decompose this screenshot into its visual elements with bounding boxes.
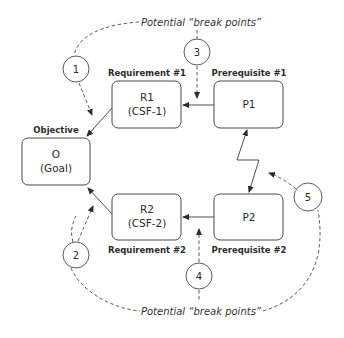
r2-label: Requirement #2 bbox=[108, 245, 186, 255]
break-point-2: 2 bbox=[63, 242, 89, 268]
r1-line2: (CSF-1) bbox=[128, 105, 167, 117]
node-objective: Objective O (Goal) bbox=[22, 125, 90, 185]
objective-line2: (Goal) bbox=[40, 162, 72, 174]
r1-label: Requirement #1 bbox=[108, 68, 186, 78]
dashed-arrow-5 bbox=[269, 173, 296, 189]
dashed-arrow-1 bbox=[79, 83, 92, 115]
break-points-title-bottom: Potential “break points” bbox=[141, 306, 262, 317]
break-point-1: 1 bbox=[63, 56, 89, 82]
break-point-number: 1 bbox=[73, 64, 79, 75]
p1-label: Prerequisite #1 bbox=[212, 68, 287, 78]
objective-label: Objective bbox=[33, 125, 79, 135]
break-point-number: 4 bbox=[196, 271, 202, 282]
break-point-number: 3 bbox=[194, 47, 200, 58]
zigzag-arrow-up bbox=[237, 130, 247, 160]
break-point-number: 5 bbox=[305, 192, 311, 203]
r1-line1: R1 bbox=[140, 91, 154, 103]
r2-line2: (CSF-2) bbox=[128, 217, 167, 229]
objective-line1: O bbox=[52, 148, 60, 160]
break-point-5: 5 bbox=[294, 183, 322, 211]
zigzag-arrow-down bbox=[246, 160, 259, 192]
break-point-number: 2 bbox=[73, 250, 79, 261]
break-points-title-top: Potential “break points” bbox=[141, 17, 262, 28]
p2-line1: P2 bbox=[242, 211, 255, 223]
arrow-r2-to-o bbox=[88, 188, 112, 214]
node-p2: P2 Prerequisite #2 bbox=[212, 194, 287, 255]
break-points-diagram: Potential “break points” Potential “brea… bbox=[0, 0, 344, 338]
p1-line1: P1 bbox=[242, 98, 255, 110]
node-r2: R2 (CSF-2) Requirement #2 bbox=[108, 194, 186, 255]
node-r1: Requirement #1 R1 (CSF-1) bbox=[108, 68, 186, 128]
r2-line1: R2 bbox=[140, 203, 154, 215]
break-point-4: 4 bbox=[186, 263, 212, 289]
dashed-curve-bottom-left bbox=[71, 268, 140, 311]
break-point-3: 3 bbox=[184, 39, 210, 65]
dashed-curve-2-up bbox=[72, 216, 76, 242]
node-p1: Prerequisite #1 P1 bbox=[212, 68, 287, 128]
dashed-arrow-2 bbox=[78, 206, 93, 241]
p2-label: Prerequisite #2 bbox=[212, 245, 287, 255]
dashed-curve-top-left bbox=[74, 22, 139, 55]
